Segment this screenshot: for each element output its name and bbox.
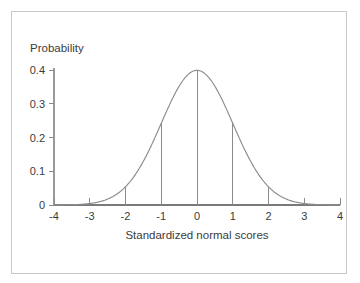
figure-container: 0.4 0.3 0.2 0.1 0 -4 -3 -2 -1 0 1 2 3 4 …	[0, 0, 360, 283]
y-tick-label-0.1: 0.1	[30, 165, 45, 177]
x-tick-label-4: 4	[337, 210, 343, 222]
x-tick-label--2: -2	[121, 210, 131, 222]
y-tick-label-0.4: 0.4	[30, 64, 45, 76]
x-tick-label--3: -3	[85, 210, 95, 222]
y-axis-tick-labels: 0.4 0.3 0.2 0.1 0	[30, 64, 45, 211]
y-tick-label-0.2: 0.2	[30, 132, 45, 144]
x-tick-label--1: -1	[156, 210, 166, 222]
y-axis-title: Probability	[30, 42, 84, 54]
x-axis-tick-labels: -4 -3 -2 -1 0 1 2 3 4	[49, 210, 343, 222]
y-axis-ticks	[49, 70, 54, 205]
y-tick-label-0: 0	[39, 199, 45, 211]
normal-distribution-chart: 0.4 0.3 0.2 0.1 0 -4 -3 -2 -1 0 1 2 3 4 …	[0, 0, 360, 283]
x-tick-label--4: -4	[49, 210, 59, 222]
x-axis-title: Standardized normal scores	[125, 229, 268, 241]
drop-lines-group	[126, 70, 269, 205]
x-tick-label-0: 0	[194, 210, 200, 222]
y-tick-label-0.3: 0.3	[30, 98, 45, 110]
x-tick-label-2: 2	[265, 210, 271, 222]
x-tick-label-1: 1	[230, 210, 236, 222]
x-tick-label-3: 3	[301, 210, 307, 222]
